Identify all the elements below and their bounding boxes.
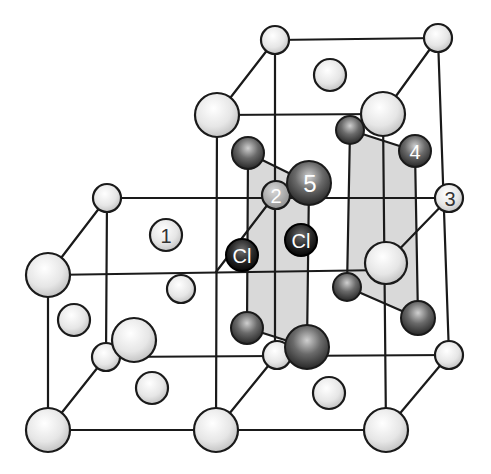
atom-light — [167, 275, 195, 303]
label-5: 5 — [303, 170, 316, 197]
atom-light — [136, 372, 168, 404]
atom-light — [365, 242, 407, 284]
atom-light — [26, 253, 70, 297]
label-cl-a: Cl — [233, 245, 252, 267]
atom-light — [112, 318, 156, 362]
atom-light — [364, 408, 408, 452]
label-4: 4 — [409, 141, 420, 163]
atom-light — [314, 59, 346, 91]
atom-light — [424, 24, 452, 52]
atom-dark — [232, 137, 264, 169]
shaded-planes — [247, 130, 418, 347]
atom-light — [26, 408, 70, 452]
atom-light — [195, 93, 239, 137]
atom-dark — [401, 301, 435, 335]
atom-dark — [333, 273, 361, 301]
atom-light — [58, 304, 90, 336]
atom-light — [313, 377, 345, 409]
atom-light — [361, 92, 405, 136]
lattice-diagram: 1 2 3 4 5 Cl Cl — [0, 0, 491, 474]
atom-light — [435, 341, 463, 369]
label-cl-b: Cl — [292, 230, 311, 252]
atom-light — [194, 408, 238, 452]
atom-dark — [231, 312, 263, 344]
atom-light — [93, 184, 121, 212]
label-2: 2 — [270, 185, 281, 207]
label-3: 3 — [444, 188, 455, 210]
atom-dark — [285, 325, 329, 369]
lattice-svg: 1 2 3 4 5 Cl Cl — [0, 0, 491, 474]
label-1: 1 — [160, 225, 171, 247]
atom-dark — [336, 116, 364, 144]
atom-light — [261, 26, 289, 54]
